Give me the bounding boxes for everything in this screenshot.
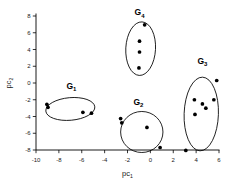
- data-point: [81, 110, 85, 114]
- data-point: [138, 50, 142, 54]
- y-axis-tick-label: 2: [27, 63, 31, 69]
- y-axis-tick-label: -2: [25, 97, 31, 103]
- data-point: [158, 146, 162, 150]
- x-axis-tick-label: 6: [217, 157, 221, 163]
- y-axis-tick-label: -6: [25, 130, 31, 136]
- data-point: [143, 23, 147, 27]
- data-point: [215, 79, 219, 83]
- y-axis-tick-label: 4: [27, 47, 31, 53]
- y-axis-title: pc2: [4, 77, 14, 88]
- svg-text:pc2: pc2: [4, 77, 14, 88]
- data-point: [193, 98, 197, 102]
- x-axis-tick-label: -4: [102, 157, 108, 163]
- cluster-label-g1: G1: [66, 81, 77, 92]
- scatter-plot-figure: -8-6-4-202468-10-8-6-4-20246pc1pc2G1G2G3…: [0, 0, 227, 189]
- cluster-label-g2: G2: [133, 97, 144, 108]
- cluster-label-g3: G3: [197, 56, 208, 67]
- data-point: [212, 98, 216, 102]
- data-point: [120, 121, 124, 125]
- y-axis-tick-label: 0: [27, 80, 31, 86]
- cluster-outline-g2: [121, 111, 163, 152]
- cluster-outline-g3: [183, 77, 220, 152]
- y-axis-tick-label: 6: [27, 30, 31, 36]
- cluster-outline-g1: [45, 96, 96, 123]
- data-point: [145, 126, 149, 130]
- y-axis-tick-label: 8: [27, 13, 31, 19]
- plot-axes: [36, 14, 219, 150]
- data-point: [184, 149, 188, 153]
- x-axis-title: pc1: [122, 169, 133, 179]
- pca-score-plot: -8-6-4-202468-10-8-6-4-20246pc1pc2G1G2G3…: [0, 0, 227, 189]
- x-axis-tick-label: -10: [32, 157, 41, 163]
- data-point: [119, 117, 123, 121]
- data-point: [201, 102, 205, 106]
- data-point: [138, 39, 142, 43]
- x-axis-tick-label: -8: [56, 157, 62, 163]
- data-point: [46, 105, 50, 109]
- x-axis-tick-label: -6: [79, 157, 85, 163]
- y-axis-tick-label: -4: [25, 114, 31, 120]
- cluster-label-g4: G4: [135, 7, 146, 18]
- data-point: [193, 113, 197, 117]
- x-axis-tick-label: -2: [125, 157, 131, 163]
- x-axis-tick-label: 2: [172, 157, 176, 163]
- x-axis-tick-label: 0: [149, 157, 153, 163]
- data-point: [204, 106, 208, 110]
- y-axis-tick-label: -8: [25, 147, 31, 153]
- data-point: [137, 66, 141, 70]
- x-axis-tick-label: 4: [194, 157, 198, 163]
- data-point: [90, 111, 94, 115]
